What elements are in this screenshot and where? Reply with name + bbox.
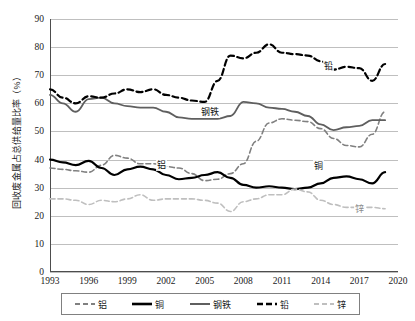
x-tick-label: 2017 xyxy=(337,276,381,286)
legend-swatch-icon xyxy=(257,300,277,308)
y-tick-label: 30 xyxy=(0,183,44,193)
recycled-metal-share-chart: 回收废金属占总供给量比率（%） 0102030405060708090 铝铜钢铁… xyxy=(0,0,415,321)
x-tick-label: 1993 xyxy=(28,276,72,286)
legend-swatch-icon xyxy=(190,300,210,308)
x-tick-label: 2002 xyxy=(144,276,188,286)
chart-legend: 铝铜钢铁铅锌 xyxy=(61,293,360,315)
legend-item-锌[interactable]: 锌 xyxy=(314,298,346,311)
y-tick-label: 60 xyxy=(0,98,44,108)
series-line xyxy=(50,189,385,211)
y-tick-label: 70 xyxy=(0,70,44,80)
series-label-钢铁: 钢铁 xyxy=(200,105,220,118)
legend-item-铜[interactable]: 铜 xyxy=(132,298,164,311)
x-tick-label: 2008 xyxy=(221,276,265,286)
y-tick-label: 50 xyxy=(0,126,44,136)
series-label-铝: 铝 xyxy=(156,158,167,171)
y-tick-label: 10 xyxy=(0,239,44,249)
x-tick-label: 2005 xyxy=(183,276,227,286)
legend-label: 铅 xyxy=(280,298,289,311)
x-tick-label: 2020 xyxy=(376,276,415,286)
x-tick-label: 2014 xyxy=(299,276,343,286)
series-label-锌: 锌 xyxy=(354,202,365,215)
series-label-铜: 铜 xyxy=(313,159,324,172)
plot-area: 铝铜钢铁铅锌 xyxy=(50,19,398,272)
y-tick-label: 80 xyxy=(0,42,44,52)
legend-item-铅[interactable]: 铅 xyxy=(257,298,289,311)
legend-label: 锌 xyxy=(337,298,346,311)
x-tick-label: 1999 xyxy=(105,276,149,286)
legend-swatch-icon xyxy=(75,300,95,308)
y-tick-label: 40 xyxy=(0,155,44,165)
x-tick-label: 2011 xyxy=(260,276,304,286)
series-line xyxy=(50,44,385,103)
series-lines xyxy=(50,19,398,272)
y-tick-label: 90 xyxy=(0,14,44,24)
gridline xyxy=(50,272,398,273)
y-tick-label: 20 xyxy=(0,211,44,221)
legend-label: 钢铁 xyxy=(213,298,231,311)
series-line xyxy=(50,112,385,181)
series-line xyxy=(50,160,385,190)
legend-item-铝[interactable]: 铝 xyxy=(75,298,107,311)
y-axis-title: 回收废金属占总供给量比率（%） xyxy=(10,21,23,261)
legend-swatch-icon xyxy=(132,300,152,308)
x-tick-label: 1996 xyxy=(67,276,111,286)
legend-label: 铜 xyxy=(155,298,164,311)
legend-swatch-icon xyxy=(314,300,334,308)
legend-item-钢铁[interactable]: 钢铁 xyxy=(190,298,231,311)
series-label-铅: 铅 xyxy=(323,59,334,72)
legend-label: 铝 xyxy=(98,298,107,311)
